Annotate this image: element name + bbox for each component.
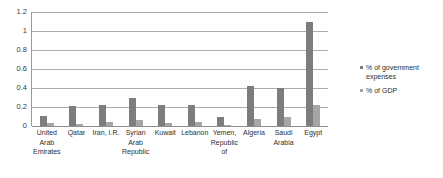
bar (47, 123, 54, 126)
bars-layer (32, 12, 328, 126)
y-tick-label: 0 (23, 122, 27, 130)
x-axis-label: Qatar (62, 128, 92, 176)
bar (313, 105, 320, 126)
bar (277, 88, 284, 126)
bar-group (180, 12, 210, 126)
x-axis-label: Iran, I.R. (91, 128, 121, 176)
bar-group (210, 12, 240, 126)
x-axis-label: Syrian Arab Republic (121, 128, 151, 176)
x-axis-label: Egypt (298, 128, 328, 176)
bar (224, 125, 231, 126)
bar-group (298, 12, 328, 126)
bar-chart: 00.20.40.60.811.2 United Arab EmiratesQa… (0, 0, 443, 178)
axis-baseline (32, 126, 328, 127)
legend-label: % of government expenses (366, 63, 443, 81)
chart-legend: % of government expenses% of GDP (360, 63, 443, 100)
y-tick-label: 1.2 (17, 8, 27, 16)
x-axis-label: Kuwait (150, 128, 180, 176)
y-axis: 00.20.40.60.811.2 (0, 0, 30, 178)
bar (158, 105, 165, 126)
bar (284, 117, 291, 126)
bar-group (32, 12, 62, 126)
bar (165, 123, 172, 126)
bar-group (239, 12, 269, 126)
legend-label: % of GDP (366, 86, 397, 95)
x-axis-label: Saudi Arabia (269, 128, 299, 176)
y-tick-label: 0.6 (17, 65, 27, 73)
y-tick-label: 1 (23, 27, 27, 35)
bar (195, 122, 202, 126)
x-axis-label: Algeria (239, 128, 269, 176)
legend-swatch-icon (360, 66, 363, 69)
bar-group (62, 12, 92, 126)
bar (40, 116, 47, 126)
x-axis-label: United Arab Emirates (32, 128, 62, 176)
bar (136, 120, 143, 126)
legend-item: % of GDP (360, 86, 443, 95)
legend-swatch-icon (360, 89, 363, 92)
bar (306, 22, 313, 127)
bar-group (91, 12, 121, 126)
bar (247, 86, 254, 126)
bar (129, 98, 136, 126)
bar (217, 117, 224, 126)
plot-area (32, 12, 328, 126)
y-tick-label: 0.8 (17, 46, 27, 54)
bar-group (121, 12, 151, 126)
bar-group (269, 12, 299, 126)
bar (188, 105, 195, 126)
bar (69, 106, 76, 126)
bar (99, 105, 106, 126)
x-axis-labels: United Arab EmiratesQatarIran, I.R.Syria… (32, 128, 328, 176)
x-axis-label: Yemen, Republic of (210, 128, 240, 176)
bar (76, 124, 83, 126)
bar-group (150, 12, 180, 126)
bar (106, 122, 113, 126)
y-tick-label: 0.4 (17, 84, 27, 92)
bar (254, 119, 261, 126)
x-axis-label: Lebanon (180, 128, 210, 176)
legend-item: % of government expenses (360, 63, 443, 81)
y-tick-label: 0.2 (17, 103, 27, 111)
